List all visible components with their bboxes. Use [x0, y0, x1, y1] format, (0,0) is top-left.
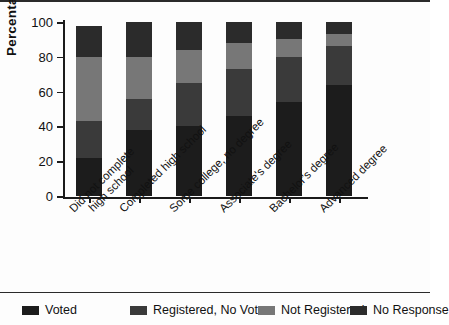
- bar-stack: [226, 22, 252, 196]
- legend-item[interactable]: Not Registered: [258, 304, 364, 317]
- legend-swatch-icon: [350, 306, 367, 315]
- y-tick-label: 20: [39, 155, 53, 168]
- bar-segment: [276, 57, 302, 102]
- y-tick-label: 80: [39, 50, 53, 63]
- bar-stack: [326, 22, 352, 196]
- bar-segment: [176, 83, 202, 127]
- bar-segment: [126, 99, 152, 130]
- bar-segment: [126, 22, 152, 57]
- bar-segment: [276, 39, 302, 56]
- bar-segment: [326, 46, 352, 84]
- bar-stack: [176, 22, 202, 196]
- legend-swatch-icon: [22, 306, 39, 315]
- y-tick-label: 60: [39, 85, 53, 98]
- y-axis-ticks: 100806040200: [0, 22, 63, 196]
- bar-segment: [126, 57, 152, 99]
- legend-item[interactable]: Voted: [22, 304, 77, 317]
- top-border-rule: [0, 0, 430, 2]
- bar-segment: [76, 121, 102, 158]
- bar-segment: [326, 22, 352, 34]
- bar-segment: [76, 26, 102, 57]
- y-tick-label: 100: [31, 16, 53, 29]
- y-tick-label: 40: [39, 120, 53, 133]
- bar-segment: [176, 50, 202, 83]
- x-axis-labels: Did not completehigh schoolCompleted hig…: [0, 198, 430, 288]
- legend-label: Registered, No Vote: [153, 304, 265, 317]
- legend: VotedRegistered, No VoteNot RegisteredNo…: [0, 292, 430, 325]
- bar-segment: [176, 22, 202, 50]
- bar-stack: [76, 22, 102, 196]
- legend-item[interactable]: No Response: [350, 304, 449, 317]
- bar-segment: [76, 57, 102, 121]
- bar-segment: [276, 22, 302, 39]
- bar-stack: [276, 22, 302, 196]
- legend-label: No Response: [373, 304, 449, 317]
- legend-label: Voted: [45, 304, 77, 317]
- legend-swatch-icon: [258, 306, 275, 315]
- legend-item[interactable]: Registered, No Vote: [130, 304, 265, 317]
- bar-segment: [326, 34, 352, 46]
- bar-segment: [226, 43, 252, 69]
- legend-swatch-icon: [130, 306, 147, 315]
- bar-segment: [226, 22, 252, 43]
- bar-segment: [226, 69, 252, 116]
